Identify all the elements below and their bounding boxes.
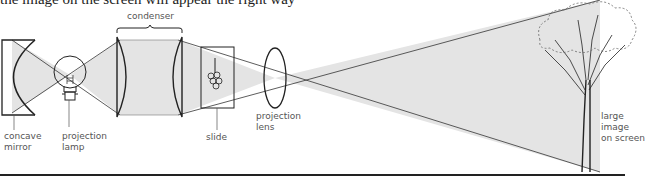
projection-lens-label-2: lens xyxy=(256,122,274,133)
condenser-beam xyxy=(120,40,178,115)
condenser-label: condenser xyxy=(127,11,174,22)
projection-lamp-label-2: lamp xyxy=(62,142,85,153)
concave-mirror-label-2: mirror xyxy=(4,142,32,153)
condenser-to-lens-beam xyxy=(178,40,275,115)
large-image-label-1: large xyxy=(601,111,624,122)
concave-mirror-label-1: concave xyxy=(4,131,42,142)
large-image-label-3: on screen xyxy=(601,133,645,144)
projector-diagram xyxy=(0,0,645,180)
mirror-to-lamp-beam xyxy=(12,40,70,113)
light-beams xyxy=(12,0,600,172)
projection-lamp-label-1: projection xyxy=(62,131,107,142)
lamp-to-condenser-beam xyxy=(70,40,120,115)
large-image-label-2: image xyxy=(601,122,629,133)
slide-label: slide xyxy=(206,132,227,143)
projection-lens-label-1: projection xyxy=(256,111,301,122)
